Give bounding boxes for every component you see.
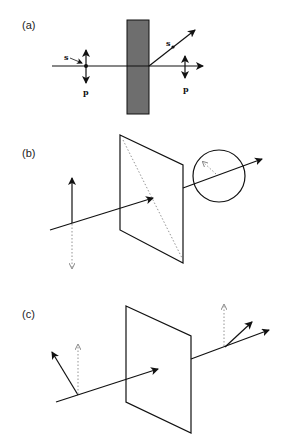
reflected-s-dot — [171, 45, 174, 48]
incident-p-label: p — [83, 87, 89, 97]
panel-b-label: (b) — [22, 147, 35, 159]
panel-a: (a) s p s p — [22, 19, 203, 114]
incident-s-label: s — [64, 52, 69, 62]
panel-b: (b) — [22, 135, 262, 268]
optics-figure: (a) s p s p (b) — [0, 0, 281, 448]
tilted-polarization-arrow — [52, 352, 78, 395]
transmission-axis-dotted — [123, 140, 182, 258]
panel-c: (c) — [22, 305, 269, 433]
incident-s-dot — [84, 64, 88, 68]
polarizing-plate — [127, 20, 149, 114]
incident-beam — [50, 198, 153, 230]
reflected-s-label: s — [166, 38, 171, 48]
transmitted-polarization-arrow — [225, 322, 252, 347]
dotted-transmitted-polarization-arrow — [203, 162, 216, 174]
polarization-circle — [193, 150, 245, 202]
transmitted-beam — [183, 159, 262, 188]
incident-beam — [56, 369, 158, 402]
transmitted-beam — [191, 330, 269, 359]
s-pointer-arrow — [70, 58, 82, 63]
panel-c-label: (c) — [22, 308, 35, 320]
transmitted-p-label: p — [183, 84, 189, 94]
panel-a-label: (a) — [22, 19, 35, 31]
polarizer-sheet — [126, 306, 191, 433]
